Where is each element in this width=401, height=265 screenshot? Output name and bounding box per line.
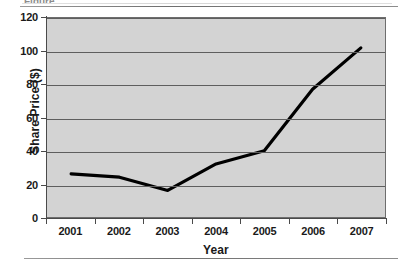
- page-rule-bottom: [24, 258, 398, 259]
- x-axis-tick-mark: [143, 219, 144, 224]
- gridline: [47, 186, 385, 187]
- x-axis-tick-mark: [337, 219, 338, 224]
- figure-container: Figure 020406080100120 20012002200320042…: [0, 0, 401, 265]
- x-axis-tick-label: 2006: [289, 226, 338, 237]
- page-rule-top-secondary: [22, 3, 392, 4]
- gridline: [47, 119, 385, 120]
- x-axis-tick-mark: [386, 219, 387, 224]
- x-axis-line: [45, 218, 387, 219]
- y-axis-tick-label: 0: [32, 213, 38, 224]
- x-axis-tick-mark: [95, 219, 96, 224]
- x-axis-tick-label: 2003: [143, 226, 192, 237]
- y-axis-title: Share Price ($): [28, 16, 42, 206]
- gridline: [47, 85, 385, 86]
- x-axis-tick-mark: [289, 219, 290, 224]
- plot-area: [46, 17, 386, 218]
- page-rule-top: [20, 6, 398, 7]
- x-axis-tick-label: 2004: [192, 226, 241, 237]
- x-axis-title: Year: [46, 243, 386, 257]
- x-axis-tick-label: 2001: [46, 226, 95, 237]
- gridline: [47, 152, 385, 153]
- x-axis-tick-label: 2005: [240, 226, 289, 237]
- data-line-share-price: [47, 18, 385, 217]
- x-axis-tick-mark: [192, 219, 193, 224]
- x-axis-tick-mark: [240, 219, 241, 224]
- gridline: [47, 18, 385, 19]
- x-axis-tick-label: 2007: [337, 226, 386, 237]
- gridline: [47, 52, 385, 53]
- y-axis-line: [46, 16, 47, 219]
- x-axis-tick-label: 2002: [95, 226, 144, 237]
- x-axis-tick-mark: [46, 219, 47, 224]
